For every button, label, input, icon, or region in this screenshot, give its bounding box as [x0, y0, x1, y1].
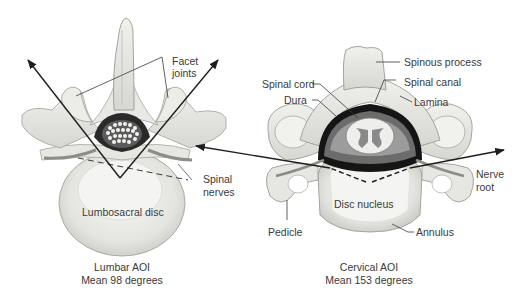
label-lumbosacral-disc: Lumbosacral disc [82, 206, 164, 218]
label-spinal-nerves-line2: nerves [203, 186, 235, 198]
lumbar-caption-mean: Mean 98 degrees [52, 274, 192, 287]
label-spinal-canal: Spinal canal [404, 76, 461, 88]
cervical-caption: Cervical AOI Mean 153 degrees [299, 261, 439, 287]
label-facet-joints-line2: joints [172, 67, 197, 79]
cervical-caption-title: Cervical AOI [299, 261, 439, 274]
label-spinal-cord: Spinal cord [262, 78, 315, 90]
diagram-stage: Facet joints Spinal nerves Lumbosacral d… [0, 0, 524, 295]
spinal-cord-shape [346, 118, 394, 154]
label-annulus: Annulus [416, 226, 454, 238]
label-lamina: Lamina [414, 96, 448, 108]
label-pedicle: Pedicle [268, 226, 302, 238]
label-facet-joints-line1: Facet [172, 55, 198, 67]
label-dura: Dura [284, 94, 307, 106]
lumbar-caption-title: Lumbar AOI [52, 261, 192, 274]
cervical-caption-mean: Mean 153 degrees [299, 274, 439, 287]
label-disc-nucleus: Disc nucleus [334, 198, 394, 210]
anatomy-illustration [0, 0, 524, 295]
label-spinal-nerves-line1: Spinal [203, 173, 232, 185]
spinal-nerves-leader [178, 164, 192, 180]
lumbar-vertebra [22, 18, 226, 256]
label-nerve-root-line1: Nerve [476, 168, 504, 180]
label-spinous-process: Spinous process [404, 56, 482, 68]
lumbar-caption: Lumbar AOI Mean 98 degrees [52, 261, 192, 287]
label-nerve-root-line2: root [476, 181, 494, 193]
